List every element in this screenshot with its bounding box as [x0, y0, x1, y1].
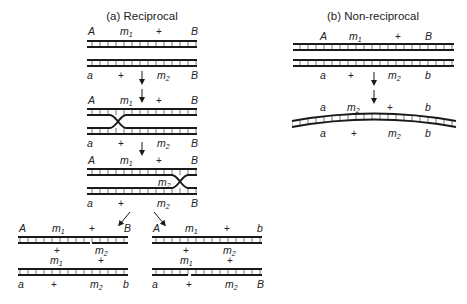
- label-m1: m1: [120, 25, 133, 38]
- label-a: a: [87, 197, 93, 209]
- label-b: b: [425, 69, 431, 81]
- label-plus: +: [89, 223, 95, 234]
- label-plus: +: [156, 26, 162, 37]
- label-plus: +: [395, 31, 401, 42]
- label-a: a: [320, 127, 326, 139]
- label-plus: +: [156, 155, 162, 166]
- label-B: B: [124, 222, 131, 234]
- label-B: B: [191, 69, 198, 81]
- stage-first-crossover: A m1 + B a + m2 B: [87, 94, 198, 150]
- label-m1: m1: [180, 254, 193, 267]
- label-plus: +: [351, 128, 357, 139]
- label-plus: +: [118, 198, 124, 209]
- label-a: a: [320, 69, 326, 81]
- label-m1: m1: [50, 254, 63, 267]
- label-b: b: [257, 222, 263, 234]
- label-plus: +: [98, 255, 104, 266]
- product-left: A m1 + B + m2 m1 + a + m2 b: [18, 222, 131, 291]
- panel-a-title: (a) Reciprocal: [106, 10, 178, 22]
- label-m2: m2: [225, 278, 238, 291]
- label-plus: +: [227, 255, 233, 266]
- label-A: A: [152, 222, 160, 234]
- label-a: a: [152, 278, 158, 290]
- panel-b-title: (b) Non-reciprocal: [327, 10, 419, 22]
- label-b: b: [425, 127, 431, 139]
- label-b: b: [425, 101, 431, 113]
- label-m2: m2: [90, 278, 103, 291]
- label-A: A: [87, 94, 95, 106]
- label-A: A: [87, 154, 95, 166]
- label-plus: +: [51, 279, 57, 290]
- product-right: A m1 + b + m2 m1 + a + m2 B: [152, 222, 264, 291]
- label-m1: m1: [120, 154, 133, 167]
- label-a: a: [87, 137, 93, 149]
- label-plus: +: [186, 279, 192, 290]
- label-m2: m2: [157, 197, 170, 210]
- label-B: B: [191, 94, 198, 106]
- label-B: B: [257, 278, 264, 290]
- label-A: A: [87, 25, 95, 37]
- label-plus: +: [387, 102, 393, 113]
- label-plus: +: [348, 70, 354, 81]
- nonreciprocal-product: a m2 + b a + m2 b: [292, 101, 456, 140]
- stage-parental: A m1 + B a + m2 B: [87, 25, 198, 82]
- stage-second-crossover: A m1 + B m2 a + m2 B: [87, 154, 198, 210]
- label-A: A: [18, 222, 26, 234]
- label-a: a: [87, 69, 93, 81]
- label-m1: m1: [52, 222, 65, 235]
- label-m1: m1: [120, 94, 133, 107]
- label-plus: +: [118, 138, 124, 149]
- label-a: a: [18, 278, 24, 290]
- label-B: B: [191, 137, 198, 149]
- label-B: B: [191, 197, 198, 209]
- label-A: A: [319, 30, 327, 42]
- label-m1: m1: [349, 30, 362, 43]
- label-B: B: [191, 154, 198, 166]
- label-B: B: [425, 30, 432, 42]
- label-a: a: [320, 101, 326, 113]
- recombination-diagram: (a) Reciprocal A m1 + B a + m2 B A m1 + …: [0, 0, 467, 304]
- label-plus: +: [118, 70, 124, 81]
- label-m2: m2: [388, 69, 401, 82]
- label-m2: m2: [347, 101, 360, 114]
- label-m1: m1: [185, 222, 198, 235]
- label-plus: +: [224, 223, 230, 234]
- label-plus: +: [156, 95, 162, 106]
- label-B: B: [191, 25, 198, 37]
- label-m2-inner: m2: [158, 176, 171, 189]
- label-m2: m2: [388, 127, 401, 140]
- label-m2: m2: [157, 137, 170, 150]
- label-m2: m2: [157, 69, 170, 82]
- label-b: b: [123, 278, 129, 290]
